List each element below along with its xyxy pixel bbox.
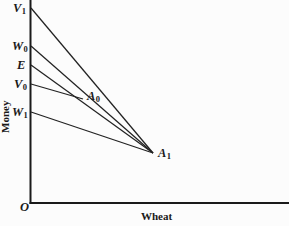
y-axis-title: Money (0, 101, 11, 133)
economics-diagram: V1 W0 E V0 W1 A0 A1 O Money Wheat (0, 0, 289, 226)
y-intercept-label-e: E (17, 59, 26, 72)
origin-label: O (20, 201, 29, 214)
line-w1-a1 (31, 112, 153, 153)
y-intercept-label-w0: W0 (12, 40, 28, 53)
x-axis-title: Wheat (141, 211, 172, 222)
line-v0-a0 (31, 84, 83, 99)
y-intercept-label-v1: V1 (13, 2, 26, 15)
line-e-a1 (31, 65, 153, 153)
y-intercept-label-v0: V0 (14, 78, 27, 91)
point-label-a0: A0 (87, 90, 100, 103)
y-intercept-label-w1: W1 (12, 106, 28, 119)
line-v1-a1 (31, 8, 153, 153)
plot-canvas (0, 0, 289, 226)
point-label-a1: A1 (158, 147, 171, 160)
